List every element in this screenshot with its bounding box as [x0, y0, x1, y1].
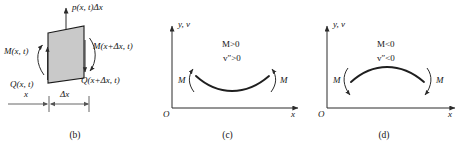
load-label: p(x, t)Δx: [72, 3, 103, 12]
right-moment-label: M(x+Δx, t): [93, 42, 133, 51]
panel-c-x-axis-label: x: [291, 110, 295, 119]
panel-d-right-moment-label: M: [436, 76, 444, 85]
dimension-x-label: x: [24, 90, 28, 99]
panel-b-caption: (b): [0, 130, 150, 140]
panel-c-y-axis-label: y, v: [178, 20, 190, 29]
left-moment-label: M(x, t): [4, 47, 29, 56]
panel-b: p(x, t)Δx M(x, t) M(x+Δx, t) Q(x, t) Q(x…: [0, 0, 150, 143]
panel-c-left-moment-label: M: [178, 76, 186, 85]
panel-c-left-moment-arrow: [189, 69, 194, 92]
panel-d-caption: (d): [305, 130, 463, 140]
beam-element-figure: p(x, t)Δx M(x, t) M(x+Δx, t) Q(x, t) Q(x…: [0, 0, 463, 143]
panel-c-graphics: [150, 0, 305, 143]
panel-d-left-moment-label: M: [333, 76, 341, 85]
panel-b-graphics: [0, 0, 150, 143]
left-shear-label: Q(x, t): [10, 80, 34, 89]
dimension-arrow-x-right: [43, 102, 48, 106]
panel-d-curvature-condition: v″<0: [377, 54, 395, 63]
panel-c-caption: (c): [150, 130, 305, 140]
panel-d: y, v x O M<0 v″<0 M M (d): [305, 0, 463, 143]
dimension-arrow-dx-left: [50, 102, 55, 106]
panel-c-right-moment-label: M: [280, 76, 288, 85]
panel-d-graphics: [305, 0, 463, 143]
panel-c-curvature-condition: v″>0: [223, 54, 241, 63]
panel-c: y, v x O M>0 v″>0 M M (c): [150, 0, 305, 143]
right-shear-label: Q(x+Δx, t): [81, 76, 120, 85]
panel-d-x-axis-label: x: [448, 110, 452, 119]
panel-d-moment-condition: M<0: [377, 40, 395, 49]
left-moment-arc: [38, 45, 44, 75]
panel-d-bending-curve: [351, 67, 424, 82]
panel-c-bending-curve: [196, 76, 269, 91]
panel-c-right-moment-arrow: [271, 69, 276, 92]
beam-element-shape: [48, 26, 84, 83]
panel-d-origin-label: O: [318, 110, 325, 119]
panel-d-left-moment-arrow: [344, 68, 350, 95]
dimension-dx-label: Δx: [60, 90, 69, 99]
panel-c-moment-condition: M>0: [222, 40, 240, 49]
panel-c-origin-label: O: [163, 110, 170, 119]
dimension-arrow-dx-right: [84, 102, 89, 106]
panel-d-y-axis-label: y, v: [333, 20, 345, 29]
panel-d-right-moment-arrow: [425, 68, 431, 95]
